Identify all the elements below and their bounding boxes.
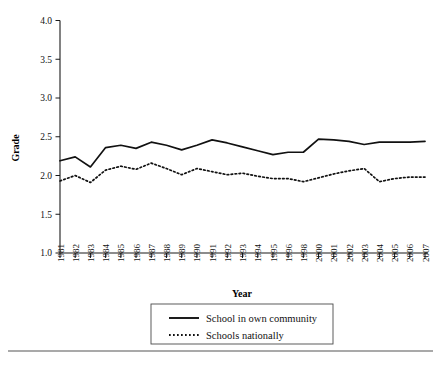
x-axis-tick-label: 2002 [345, 244, 355, 262]
x-axis-tick-label: 1986 [132, 244, 142, 263]
x-axis-tick-label: 1983 [86, 244, 96, 263]
y-axis-tick-label: 2.5 [40, 132, 52, 142]
y-axis-tick-label: 3.0 [40, 93, 52, 103]
x-axis-tick-label: 1990 [192, 244, 202, 263]
x-axis-tick-label: 1987 [147, 244, 157, 263]
x-axis-tick-label: 1994 [253, 244, 263, 263]
series-line-2 [60, 163, 425, 182]
chart-legend: School in own communitySchools nationall… [151, 304, 333, 344]
x-axis-tick-label: 1981 [56, 244, 66, 262]
y-axis-tick-label: 1.0 [40, 248, 52, 258]
x-axis-tick-label: 1998 [299, 244, 309, 263]
y-axis-tick-label: 3.5 [40, 55, 52, 65]
x-axis-tick-label: 1982 [71, 244, 81, 262]
x-axis-tick-label: 1992 [223, 244, 233, 262]
y-axis-tick-label: 1.5 [40, 210, 52, 220]
x-axis-tick-label: 1985 [116, 244, 126, 263]
figure-container: 1.01.52.02.53.03.54.0 198119821983198419… [0, 0, 441, 366]
x-axis-tick-label: 2001 [329, 244, 339, 262]
series-line-1 [60, 139, 425, 167]
x-axis-tick-label: 2000 [314, 244, 324, 263]
x-axis-tick-label: 1991 [208, 244, 218, 262]
x-axis: 1981198219831984198519861987198819891990… [56, 244, 431, 263]
x-axis-tick-label: 1996 [284, 244, 294, 263]
y-axis-tick-label: 2.0 [40, 171, 52, 181]
line-chart: 1.01.52.02.53.03.54.0 198119821983198419… [0, 0, 441, 366]
x-axis-tick-label: 1988 [162, 244, 172, 263]
x-axis-tick-label: 2005 [390, 244, 400, 263]
data-series-group [60, 139, 425, 182]
x-axis-tick-label: 1984 [101, 244, 111, 263]
x-axis-tick-label: 1993 [238, 244, 248, 263]
legend-label-1: School in own community [206, 313, 318, 324]
x-axis-title: Year [232, 288, 253, 299]
y-axis-tick-label: 4.0 [40, 16, 52, 26]
x-axis-tick-label: 2003 [360, 244, 370, 263]
y-axis-title: Grade [10, 134, 21, 162]
legend-label-2: Schools nationally [206, 330, 285, 341]
x-axis-tick-label: 2007 [421, 244, 431, 263]
x-axis-tick-label: 2006 [405, 244, 415, 263]
y-axis: 1.01.52.02.53.03.54.0 [40, 16, 60, 259]
x-axis-tick-label: 1989 [177, 244, 187, 263]
x-axis-tick-label: 1995 [269, 244, 279, 263]
x-axis-tick-label: 2004 [375, 244, 385, 263]
